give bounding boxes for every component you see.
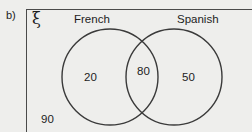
set-label-french: French (74, 13, 110, 26)
region-value-outside: 90 (41, 113, 54, 126)
region-value-intersection: 80 (137, 65, 150, 78)
venn-diagram-figure: b) ξ French Spanish 20 80 50 90 (0, 0, 252, 132)
region-value-french-only: 20 (84, 71, 97, 84)
region-value-spanish-only: 50 (182, 71, 195, 84)
set-label-spanish: Spanish (177, 13, 219, 26)
